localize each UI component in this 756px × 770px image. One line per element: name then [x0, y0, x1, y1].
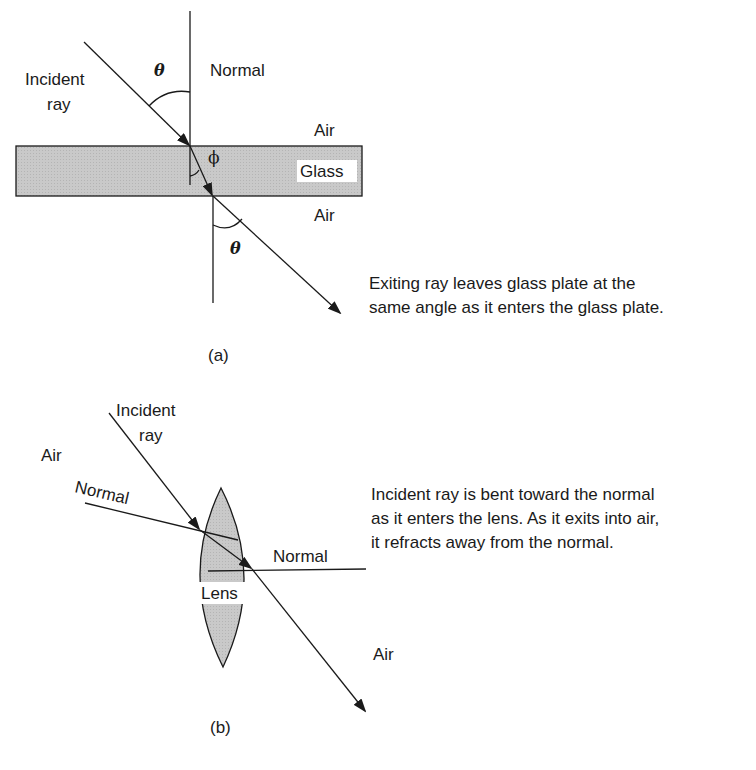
panel-a-caption: (a) — [208, 346, 229, 365]
incident-ray-label-b: Incident — [116, 401, 176, 420]
air-top-label: Air — [314, 121, 335, 140]
air-bottom-label: Air — [314, 206, 335, 225]
normal-entry-label: Normal — [73, 477, 131, 508]
refraction-diagram: θ ϕ θ Incident ray Normal Air Glass Air … — [0, 0, 756, 770]
panel-b-description-3: it refracts away from the normal. — [371, 533, 614, 552]
incident-ray-label-2: ray — [47, 95, 71, 114]
theta-incident-label: θ — [154, 61, 165, 80]
lens — [200, 488, 244, 667]
theta-exit-label: θ — [230, 239, 241, 258]
glass-label: Glass — [300, 162, 343, 181]
incident-ray — [84, 42, 189, 145]
panel-b-caption: (b) — [210, 718, 231, 737]
panel-b-description-2: as it enters the lens. As it exits into … — [371, 509, 659, 528]
lens-label: Lens — [201, 584, 238, 603]
air-left-label: Air — [41, 446, 62, 465]
normal-exit-label: Normal — [273, 547, 328, 566]
panel-a: θ ϕ θ Incident ray Normal Air Glass Air … — [16, 11, 664, 365]
angle-arc-exit — [213, 219, 242, 228]
air-right-label: Air — [373, 645, 394, 664]
phi-label: ϕ — [208, 147, 220, 167]
incident-ray-label-b-2: ray — [139, 426, 163, 445]
incident-ray-label: Incident — [25, 70, 85, 89]
panel-b-description-1: Incident ray is bent toward the normal — [371, 485, 654, 504]
angle-arc-incident — [149, 91, 190, 106]
normal-label: Normal — [210, 61, 265, 80]
panel-b: Incident ray Air Normal Normal Lens Air … — [41, 401, 659, 737]
panel-a-description-2: same angle as it enters the glass plate. — [369, 298, 664, 317]
panel-a-description-1: Exiting ray leaves glass plate at the — [369, 274, 635, 293]
exiting-ray-lens — [252, 569, 365, 711]
